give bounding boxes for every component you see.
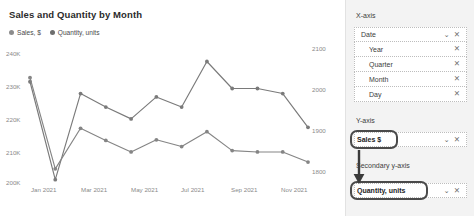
x-axis-child-day-label: Day — [355, 91, 454, 98]
chart-data-point[interactable] — [306, 160, 310, 164]
x-axis-field-date[interactable]: Date ⌄ ✕ — [354, 27, 467, 42]
x-axis-child-month-label: Month — [355, 76, 454, 83]
chart-data-point[interactable] — [205, 130, 209, 134]
legend-swatch-quantity-icon — [50, 30, 55, 35]
chart-data-point[interactable] — [154, 138, 158, 142]
y-axis-right-tick-3: 1800 — [312, 168, 326, 175]
chart-data-point[interactable] — [154, 95, 158, 99]
x-axis-child-quarter[interactable]: Quarter ✕ — [354, 57, 467, 72]
chevron-down-icon[interactable]: ⌄ — [443, 31, 453, 39]
chart-data-point[interactable] — [53, 167, 57, 171]
close-icon[interactable]: ✕ — [454, 187, 466, 195]
y-axis-right-tick-1: 2000 — [312, 86, 326, 93]
x-axis-tick-2: May 2021 — [131, 186, 158, 193]
chart-data-point[interactable] — [306, 125, 310, 129]
chart-panel: Sales and Quantity by Month Sales, $ Qua… — [0, 0, 340, 216]
legend-item-sales[interactable]: Sales, $ — [9, 29, 41, 36]
chart-title: Sales and Quantity by Month — [9, 9, 142, 20]
chart-data-point[interactable] — [230, 87, 234, 91]
chart-legend: Sales, $ Quantity, units — [9, 29, 100, 36]
close-icon[interactable]: ✕ — [454, 31, 466, 39]
chart-data-point[interactable] — [79, 92, 83, 96]
chart-data-point[interactable] — [28, 76, 32, 80]
x-axis-tick-3: Jul 2021 — [181, 186, 204, 193]
chart-data-point[interactable] — [230, 149, 234, 153]
chart-data-point[interactable] — [180, 145, 184, 149]
legend-label-quantity: Quantity, units — [58, 29, 100, 36]
chart-data-point[interactable] — [256, 87, 260, 91]
chart-data-point[interactable] — [281, 150, 285, 154]
chart-series-line-0 — [30, 62, 308, 180]
y-axis-right-tick-0: 2100 — [312, 45, 326, 52]
close-icon[interactable]: ✕ — [454, 45, 466, 53]
x-axis-tick-1: Mar 2021 — [81, 186, 107, 193]
chart-data-point[interactable] — [256, 150, 260, 154]
y-axis-right-tick-2: 1900 — [312, 127, 326, 134]
x-axis-child-day[interactable]: Day ✕ — [354, 87, 467, 102]
y-axis-section-label: Y-axis — [356, 117, 375, 124]
chevron-down-icon[interactable]: ⌄ — [443, 136, 453, 144]
y-axis-left-tick-1: 230K — [6, 83, 20, 90]
close-icon[interactable]: ✕ — [454, 75, 466, 83]
x-axis-field-date-label: Date — [355, 31, 443, 38]
x-axis-tick-0: Jan 2021 — [31, 186, 56, 193]
chart-data-point[interactable] — [53, 178, 57, 182]
legend-swatch-sales-icon — [9, 30, 14, 35]
x-axis-child-year-label: Year — [355, 46, 454, 53]
chart-data-point[interactable] — [129, 117, 133, 121]
chart-data-point[interactable] — [104, 139, 108, 143]
chart-data-point[interactable] — [281, 92, 285, 96]
close-icon[interactable]: ✕ — [454, 60, 466, 68]
close-icon[interactable]: ✕ — [454, 136, 466, 144]
x-axis-child-month[interactable]: Month ✕ — [354, 72, 467, 87]
x-axis-tick-4: Sep 2021 — [231, 186, 258, 193]
chart-plot-area — [30, 48, 308, 183]
chart-data-point[interactable] — [129, 150, 133, 154]
legend-label-sales: Sales, $ — [17, 29, 41, 36]
chart-svg — [30, 48, 308, 183]
y-axis-left-tick-3: 210K — [6, 149, 20, 156]
x-axis-child-year[interactable]: Year ✕ — [354, 42, 467, 57]
x-axis-section-label: X-axis — [356, 12, 375, 19]
x-axis-child-quarter-label: Quarter — [355, 61, 454, 68]
close-icon[interactable]: ✕ — [454, 90, 466, 98]
y-axis-left-tick-2: 220K — [6, 116, 20, 123]
chart-data-point[interactable] — [104, 105, 108, 109]
chart-data-point[interactable] — [205, 60, 209, 64]
chevron-down-icon[interactable]: ⌄ — [443, 187, 453, 195]
screenshot-root: Sales and Quantity by Month Sales, $ Qua… — [0, 0, 474, 216]
chart-data-point[interactable] — [79, 126, 83, 130]
legend-item-quantity[interactable]: Quantity, units — [50, 29, 100, 36]
annotation-arrow-icon — [349, 150, 373, 190]
x-axis-tick-5: Nov 2021 — [281, 186, 308, 193]
y-axis-left-tick-4: 200K — [6, 179, 20, 186]
y-axis-left-tick-0: 240K — [6, 50, 20, 57]
highlight-sales-label: Sales $ — [357, 136, 381, 143]
chart-data-point[interactable] — [180, 105, 184, 109]
